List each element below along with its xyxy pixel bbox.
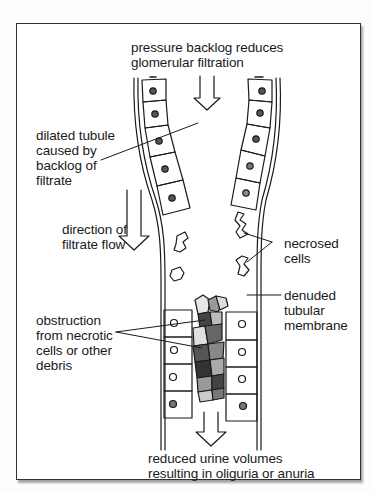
leader-lines: [101, 123, 281, 348]
label-filtrate-flow: direction of filtrate flow: [62, 222, 127, 252]
right-epithelial-cells: [231, 77, 272, 210]
label-obstruction: obstruction from necrotic cells or other…: [36, 313, 113, 373]
necrosed-cell-fragments: [170, 212, 249, 281]
label-dilated-tubule: dilated tubule caused by backlog of filt…: [36, 128, 115, 188]
left-epithelial-cells: [142, 77, 190, 215]
debris-obstruction: [193, 295, 228, 402]
label-pressure-backlog: pressure backlog reduces glomerular filt…: [131, 40, 283, 70]
filtration-arrow-icon: [194, 76, 220, 110]
label-reduced-urine: reduced urine volumes resulting in oligu…: [148, 451, 315, 481]
left-tubule-wall: [134, 78, 165, 450]
urine-output-arrow-icon: [196, 412, 226, 446]
label-denuded-membrane: denuded tubular membrane: [284, 288, 348, 333]
label-necrosed-cells: necrosed cells: [284, 236, 339, 266]
